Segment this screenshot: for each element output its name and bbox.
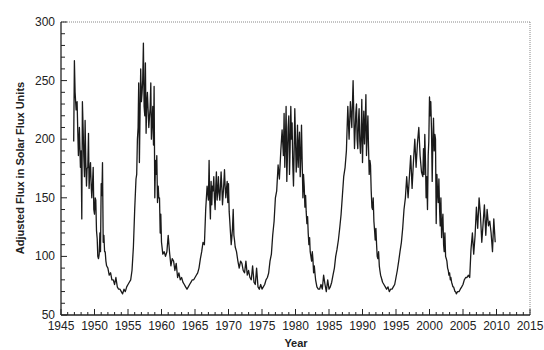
x-tick-label: 2005 [450,319,477,333]
x-tick-label: 1950 [81,319,108,333]
y-axis-title: Adjusted Flux in Solar Flux Units [14,82,26,254]
x-tick-label: 1980 [282,319,309,333]
x-axis: 1945195019551960196519701975198019851990… [48,309,544,333]
solar-flux-chart: 50100150200250300 1945195019551960196519… [0,0,544,350]
y-tick-label: 250 [35,74,55,88]
x-tick-label: 2015 [517,319,544,333]
y-axis: 50100150200250300 [35,15,67,322]
x-tick-label: 2010 [483,319,510,333]
x-tick-label: 1995 [383,319,410,333]
flux-series-line [74,43,496,294]
y-tick-label: 300 [35,15,55,29]
y-tick-label: 200 [35,132,55,146]
x-tick-label: 1955 [115,319,142,333]
x-tick-label: 1990 [349,319,376,333]
y-tick-label: 100 [35,249,55,263]
x-tick-label: 1975 [249,319,276,333]
x-tick-label: 1945 [48,319,75,333]
x-tick-label: 1970 [215,319,242,333]
x-tick-label: 1965 [182,319,209,333]
x-tick-label: 1985 [316,319,343,333]
x-axis-title: Year [284,337,308,349]
x-tick-label: 1960 [148,319,175,333]
x-tick-label: 2000 [416,319,443,333]
y-tick-label: 150 [35,191,55,205]
